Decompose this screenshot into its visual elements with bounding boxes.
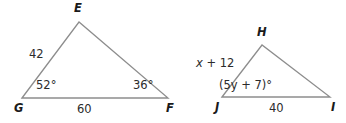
side-label-ji: 40 [269,103,284,115]
geometry-figure-two-triangles: E F G 42 60 52° 36° H I J x + 12 40 (5y … [0,0,346,123]
side-label-ge: 42 [29,49,44,61]
angle-label-j: (5y + 7)° [219,80,272,92]
vertex-label-f: F [166,103,174,115]
angle-label-f: 36° [133,80,153,92]
angle-label-g: 52° [36,80,56,92]
vertex-label-j: J [215,102,219,114]
vertex-label-i: I [331,102,335,114]
vertex-label-h: H [257,27,267,39]
vertex-label-g: G [14,103,23,115]
side-label-gf: 60 [77,104,92,116]
vertex-label-e: E [74,3,82,15]
side-label-jh: x + 12 [196,58,234,70]
